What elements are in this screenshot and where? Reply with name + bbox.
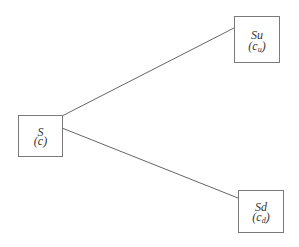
node-su: Su (cu)	[234, 16, 280, 63]
node-s: S (c)	[18, 115, 63, 157]
node-sd-value-main: (c	[252, 210, 261, 224]
node-su-value: (cu)	[235, 40, 279, 52]
node-s-value-main: (c	[34, 134, 43, 148]
edge-s-to-su	[62, 28, 234, 116]
node-sd: Sd (cd)	[238, 190, 284, 233]
node-su-value-close: )	[262, 39, 266, 53]
node-sd-value: (cd)	[239, 211, 283, 223]
node-s-value-close: )	[43, 134, 47, 148]
node-s-value: (c)	[19, 135, 62, 147]
node-sd-value-close: )	[266, 210, 270, 224]
node-su-value-main: (c	[248, 39, 257, 53]
edge-s-to-sd	[62, 128, 238, 198]
